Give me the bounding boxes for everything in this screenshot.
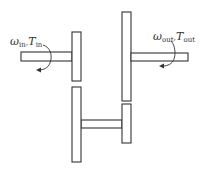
output-label: ωout,Tout [153,30,195,44]
output-gear [122,12,131,101]
countershaft [81,120,122,128]
output-shaft [131,53,188,61]
input-label: ωin,Tin [10,35,43,49]
input-gear [72,32,81,81]
input-shaft [21,52,72,61]
countershaft-gear-small [122,104,131,143]
countershaft-gear-large [72,87,81,162]
gear-train-diagram: ωin,Tin ωout,Tout [0,0,200,175]
